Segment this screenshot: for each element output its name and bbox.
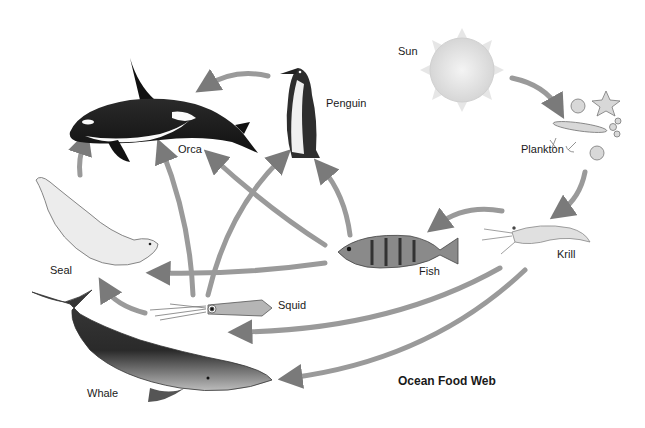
label-krill: Krill <box>557 248 575 260</box>
label-penguin: Penguin <box>326 97 366 109</box>
penguin-illustration <box>280 68 320 158</box>
arrow-fish-seal <box>158 263 325 273</box>
label-sun: Sun <box>398 45 418 57</box>
label-seal: Seal <box>50 264 72 276</box>
arrow-squid-seal <box>105 288 145 313</box>
seal-illustration <box>36 177 158 265</box>
arrow-seal-orca <box>80 142 85 175</box>
arrow-krill-fish <box>437 209 502 225</box>
arrow-fish-penguin <box>322 168 350 235</box>
label-plankton: Plankton <box>521 143 564 155</box>
arrow-plankton-krill <box>560 172 585 212</box>
label-orca: Orca <box>178 143 202 155</box>
label-squid: Squid <box>278 299 306 311</box>
squid-illustration <box>150 300 272 320</box>
label-fish: Fish <box>419 265 440 277</box>
food-web-diagram <box>0 0 645 428</box>
diagram-title: Ocean Food Web <box>398 374 496 388</box>
label-whale: Whale <box>87 387 118 399</box>
arrow-penguin-orca <box>206 74 268 86</box>
fish-illustration <box>338 235 458 268</box>
sun-illustration <box>420 28 504 112</box>
arrow-sun-plankton <box>512 78 558 108</box>
